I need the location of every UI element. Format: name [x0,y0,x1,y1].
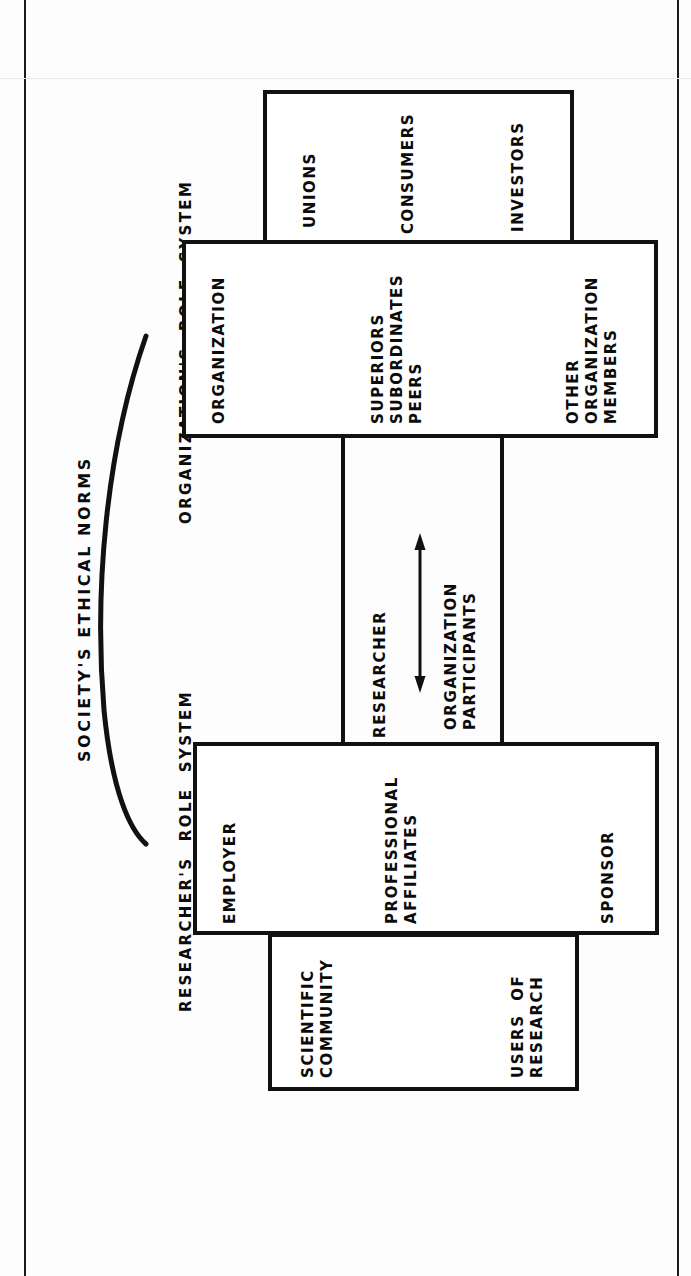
label-scientific: SCIENTIFIC [300,969,317,1078]
label-organization-members-line2: ORGANIZATION [584,276,601,424]
label-professional: PROFESSIONAL [384,776,401,924]
page-margin-rule-right [677,0,679,1276]
label-peers: PEERS [408,362,425,424]
label-researcher: RESEARCHER [372,611,389,738]
label-employer: EMPLOYER [222,821,239,924]
label-organization-participants-line1: ORGANIZATION [443,582,460,730]
brace-arc-icon [88,330,158,850]
page-scan-hairline [0,78,691,79]
connector-line-left [341,436,345,746]
label-subordinates: SUBORDINATES [389,274,406,424]
page-margin-rule-left [24,0,26,1276]
employer-box [193,742,659,935]
label-organization: ORGANIZATION [211,276,228,424]
label-affiliates: AFFILIATES [403,813,420,924]
figure-page: SOCIETY'S ETHICAL NORMS ORGANIZATION'S R… [0,0,691,1276]
label-organization-participants-line2: PARTICIPANTS [462,591,479,730]
label-investors: INVESTORS [510,121,527,232]
label-unions: UNIONS [302,152,319,228]
connector-line-right [500,436,504,746]
label-other: OTHER [565,359,582,424]
bidirectional-arrow-icon [413,533,427,693]
label-consumers: CONSUMERS [400,113,417,234]
label-community: COMMUNITY [319,959,336,1078]
label-members: MEMBERS [603,329,620,424]
label-research: RESEARCH [529,976,546,1078]
label-sponsor: SPONSOR [600,831,617,924]
label-users-of: USERS OF [510,975,527,1078]
label-superiors: SUPERIORS [370,313,387,424]
